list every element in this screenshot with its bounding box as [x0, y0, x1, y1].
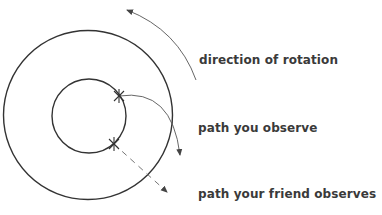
label-path-you-observe: path you observe	[198, 121, 318, 135]
label-direction-of-rotation: direction of rotation	[199, 53, 338, 67]
label-path-friend-observes: path your friend observes	[198, 187, 376, 201]
rotating-disk-diagram	[0, 0, 382, 215]
inner-circle	[52, 79, 126, 153]
observed-path-curve	[119, 95, 180, 155]
friend-path-dashed	[114, 144, 167, 192]
rotation-arrow	[127, 10, 196, 80]
